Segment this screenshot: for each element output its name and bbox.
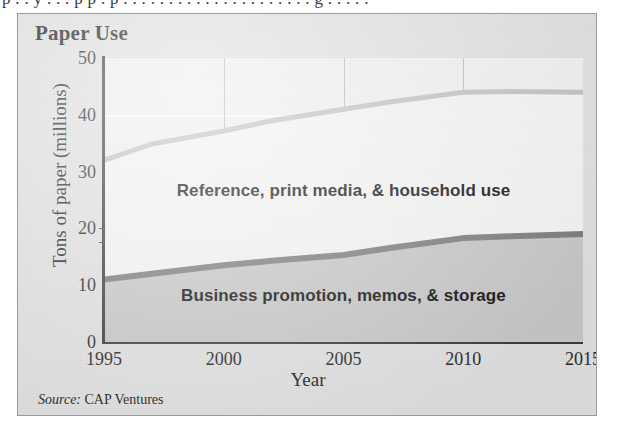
y-tick-label-50: 50 bbox=[78, 48, 96, 69]
y-tick-label-30: 30 bbox=[78, 161, 96, 182]
x-tick-label-2015: 2015 bbox=[565, 349, 597, 370]
series-label-reference-print-household: Reference, print media, & household use bbox=[104, 181, 583, 201]
source-line: Source: CAP Ventures bbox=[38, 392, 163, 408]
series-label-business-promotion: Business promotion, memos, & storage bbox=[104, 286, 583, 306]
x-tick-label-1995: 1995 bbox=[86, 349, 122, 370]
page-cut-off-text: p . . y . . . p p . p . . . . . . . . . … bbox=[2, 0, 618, 5]
page-cut-off-text-above-figure: p . . y . . . p p . p . . . . . . . . . … bbox=[0, 0, 618, 13]
chart-title: Paper Use bbox=[35, 21, 128, 46]
x-tick-label-2000: 2000 bbox=[206, 349, 242, 370]
y-axis-title: Tons of paper (millions) bbox=[49, 45, 71, 305]
y-tick-label-40: 40 bbox=[78, 104, 96, 125]
figure-container: Paper Use Tons of paper (millions) Year … bbox=[17, 13, 597, 416]
y-tick-mark-18 bbox=[99, 242, 104, 243]
source-value: CAP Ventures bbox=[85, 392, 164, 407]
x-tick-label-2005: 2005 bbox=[326, 349, 362, 370]
x-axis-title: Year bbox=[18, 369, 597, 391]
plot-area: Reference, print media, & household use … bbox=[104, 58, 583, 342]
y-tick-mark-20 bbox=[99, 228, 104, 229]
y-tick-label-10: 10 bbox=[78, 275, 96, 296]
y-tick-label-20: 20 bbox=[78, 218, 96, 239]
source-label: Source: bbox=[38, 392, 81, 407]
x-axis-line bbox=[102, 342, 583, 344]
x-tick-label-2010: 2010 bbox=[445, 349, 481, 370]
